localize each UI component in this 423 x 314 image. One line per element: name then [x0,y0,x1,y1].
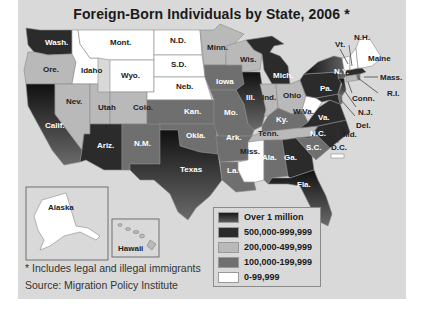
state-kan [147,100,214,124]
label-va: Va. [318,113,330,122]
legend-item-0: 0-99,999 [218,271,280,283]
label-calif: Calif. [45,121,65,130]
label-ark: Ark. [226,133,242,142]
label-fla: Fla. [297,180,311,189]
label-utah: Utah [98,103,116,112]
legend-swatch [218,227,239,238]
label-texas: Texas [180,165,203,174]
label-kan: Kan. [184,107,201,116]
label-sd: S.D. [171,60,187,69]
label-nh: N.H. [354,33,370,42]
label-conn: Conn. [352,94,375,103]
label-vt: Vt. [335,40,345,49]
label-la: La. [227,166,239,175]
label-wva: W.Va. [293,107,314,116]
legend-label: Over 1 million [244,212,304,222]
legend-swatch [218,242,239,253]
label-alaska: Alaska [48,203,74,212]
legend-item-200k: 200,000-499,999 [218,241,312,253]
label-ala: Ala. [262,153,277,162]
legend-item-over-1m: Over 1 million [218,211,304,223]
label-nev: Nev. [66,97,82,106]
label-md: Md. [343,130,357,139]
label-colo: Colo. [133,103,153,112]
label-iowa: Iowa [216,77,234,86]
label-mass: Mass. [380,73,402,82]
label-ny: N.Y. [334,67,349,76]
label-wis: Wis. [240,55,256,64]
label-mo: Mo. [224,108,238,117]
label-hawaii: Hawaii [118,244,143,253]
label-nc: N.C. [310,129,326,138]
legend: Over 1 million 500,000-999,999 200,000-4… [213,207,321,287]
label-del: Del. [356,121,371,130]
label-sc: S.C. [306,143,322,152]
label-neb: Neb. [176,82,193,91]
legend-swatch [218,212,239,223]
state-dc [331,154,344,158]
legend-label: 0-99,999 [244,272,280,282]
label-ohio: Ohio [283,91,301,100]
label-wash: Wash. [45,38,68,47]
label-nj: N.J. [358,108,373,117]
label-idaho: Idaho [81,66,102,75]
label-mont: Mont. [110,38,131,47]
footnote: * Includes legal and illegal immigrants [25,262,201,274]
legend-swatch [218,257,239,268]
label-mich: Mich. [273,71,293,80]
label-wyo: Wyo. [121,71,140,80]
label-ga: Ga. [284,153,297,162]
label-tenn: Tenn. [258,129,279,138]
label-pa: Pa. [320,84,332,93]
label-ariz: Ariz. [97,141,114,150]
label-dc: D.C. [331,143,347,152]
label-nd: N.D. [170,36,186,45]
legend-label: 100,000-199,999 [244,257,312,267]
label-ore: Ore. [43,65,59,74]
label-ill: Ill. [246,93,255,102]
label-minn: Minn. [207,43,228,52]
legend-label: 200,000-499,999 [244,242,312,252]
legend-label: 500,000-999,999 [244,227,312,237]
label-ky: Ky. [276,115,288,124]
label-ri: R.I. [387,89,399,98]
source-credit: Source: Migration Policy Institute [25,279,178,291]
legend-item-100k: 100,000-199,999 [218,256,312,268]
label-ind: Ind. [262,93,276,102]
legend-swatch [218,272,239,283]
label-okla: Okla. [186,131,206,140]
state-alaska [34,193,100,250]
legend-item-500k: 500,000-999,999 [218,226,312,238]
label-nm: N.M. [134,139,151,148]
label-maine: Maine [368,54,391,63]
label-miss: Miss. [240,147,260,156]
